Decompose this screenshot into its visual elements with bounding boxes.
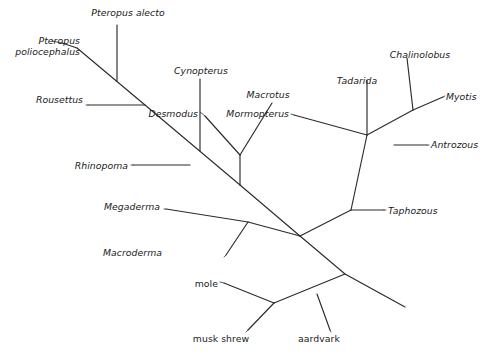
taxon-label-taphozous: Taphozous: [388, 206, 452, 217]
node-outgroup-stem: [274, 274, 345, 303]
taxon-label-musk-shrew: musk shrew: [186, 334, 256, 345]
tip-chalinolobus: [407, 58, 413, 110]
taxon-label-pteropus-alecto: Pteropus alecto: [80, 8, 176, 19]
taxon-label-macroderma: Macroderma: [82, 248, 162, 259]
tip-mole: [224, 283, 274, 303]
taxon-label-mole: mole: [180, 279, 218, 290]
tip-mormopterus: [294, 115, 367, 135]
phylogenetic-tree-figure: Pteropus poliocephalusPteropus alectoRou…: [0, 0, 491, 360]
leader-mole: [220, 282, 224, 283]
leader-desmodus: [200, 112, 205, 116]
node-vespertilionid-stem: [367, 110, 413, 135]
node-molossid-vesper-stem: [351, 135, 367, 210]
taxon-label-cynopterus: Cynopterus: [165, 66, 237, 77]
taxon-label-megaderma: Megaderma: [82, 202, 160, 213]
tip-myotis: [413, 97, 443, 110]
taxon-label-pteropus-poliocephalus: Pteropus poliocephalus: [14, 36, 80, 58]
taxon-label-antrozous: Antrozous: [431, 140, 491, 151]
tip-megaderma: [166, 209, 248, 222]
tip-macroderma: [226, 222, 248, 255]
node-yangochiroptera-stem: [300, 210, 351, 236]
tip-desmodus: [205, 116, 240, 155]
tip-aardvark: [317, 294, 330, 330]
taxon-label-desmodus: Desmodus: [132, 109, 198, 120]
taxon-label-macrotus: Macrotus: [237, 90, 299, 101]
tip-musk-shrew: [248, 303, 274, 330]
taxon-label-rousettus: Rousettus: [21, 95, 83, 106]
taxon-label-mormopterus: Mormopterus: [207, 109, 289, 120]
taxon-label-aardvark: aardvark: [290, 334, 348, 345]
branch-line-group: [62, 25, 443, 330]
taxon-label-chalinolobus: Chalinolobus: [380, 50, 460, 61]
taxon-label-myotis: Myotis: [446, 92, 490, 103]
backbone-lower: [300, 236, 405, 307]
taxon-label-rhinopoma: Rhinopoma: [56, 161, 128, 172]
taxon-label-tadarida: Tadarida: [327, 76, 387, 87]
